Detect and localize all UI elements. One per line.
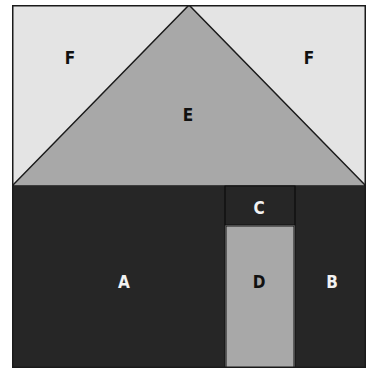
label-b: B bbox=[326, 272, 338, 292]
label-f-left: F bbox=[65, 48, 75, 68]
label-d: D bbox=[253, 272, 266, 292]
label-a: A bbox=[118, 272, 130, 292]
label-c: C bbox=[253, 198, 264, 218]
house-quilt-diagram: F F E A B C D bbox=[12, 5, 366, 368]
label-e: E bbox=[183, 105, 193, 125]
label-f-right: F bbox=[304, 48, 314, 68]
region-d-door bbox=[226, 226, 294, 368]
